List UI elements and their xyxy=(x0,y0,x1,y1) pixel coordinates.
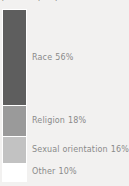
segment-label-sexual-orientation: Sexual orientation16% xyxy=(32,145,129,155)
segment-label-other-value: 10% xyxy=(58,167,76,176)
segment-label-sexual-orientation-name: Sexual orientation xyxy=(32,145,108,154)
segment-label-religion: Religion18% xyxy=(32,116,86,126)
segment-label-religion-value: 18% xyxy=(68,116,86,125)
segment-label-sexual-orientation-value: 16% xyxy=(111,145,129,154)
segment-labels: Race56% Religion18% Sexual orientation16… xyxy=(0,9,129,182)
segment-label-religion-name: Religion xyxy=(32,116,65,125)
chart-subtitle: (total = 1,700) xyxy=(1,0,58,2)
segment-label-race-name: Race xyxy=(32,53,52,62)
segment-label-race-value: 56% xyxy=(55,53,73,62)
segment-label-race: Race56% xyxy=(32,53,73,63)
segment-label-other-name: Other xyxy=(32,167,55,176)
segment-label-other: Other10% xyxy=(32,167,77,177)
stacked-bar-chart: (total = 1,700) Race56% Religion18% Sexu… xyxy=(0,0,129,186)
